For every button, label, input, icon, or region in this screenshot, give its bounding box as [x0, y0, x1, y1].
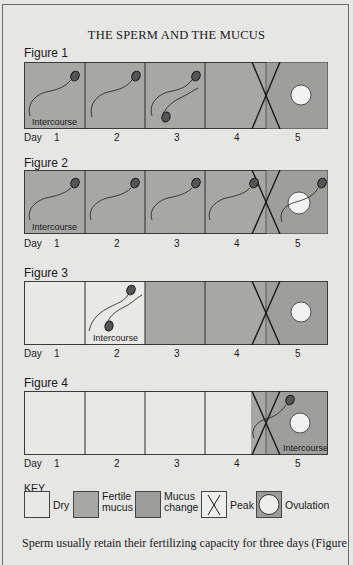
- figure-3-chart: Intercourse: [24, 281, 328, 345]
- figure-4-chart: Intercourse: [24, 391, 328, 455]
- figure-1-chart: Intercourse: [24, 62, 328, 129]
- figure-1-label: Figure 1: [24, 46, 68, 60]
- figure-1-day-axis: Day 1 2 3 4 5: [24, 132, 328, 144]
- diagram-title: THE SPERM AND THE MUCUS: [0, 28, 353, 43]
- mucus-change-swatch: [135, 491, 161, 518]
- peak-swatch: [201, 491, 227, 518]
- fertile-mucus-swatch: [73, 491, 99, 518]
- intercourse-label: Intercourse: [93, 333, 138, 343]
- intercourse-label: Intercourse: [283, 443, 328, 453]
- figure-4-label: Figure 4: [24, 376, 68, 390]
- intercourse-label: Intercourse: [32, 117, 77, 127]
- ovulation-swatch: [256, 491, 282, 518]
- ovum-circle-icon: [257, 492, 281, 517]
- fertile-mucus-label: Fertile mucus: [102, 491, 133, 513]
- figure-3-label: Figure 3: [24, 266, 68, 280]
- mucus-change-label: Mucus change: [164, 491, 198, 513]
- figure-3-day-axis: Day 1 2 3 4 5: [24, 348, 328, 360]
- peak-x-icon: [202, 492, 226, 517]
- dry-swatch: [24, 491, 50, 518]
- figure-4-day-axis: Day 1 2 3 4 5: [24, 458, 328, 470]
- figure-2-label: Figure 2: [24, 156, 68, 170]
- figure-2-chart: Intercourse: [24, 170, 328, 234]
- body-paragraph: Sperm usually retain their fertilizing c…: [22, 536, 352, 551]
- intercourse-label: Intercourse: [32, 222, 77, 232]
- figure-2-day-axis: Day 1 2 3 4 5: [24, 238, 328, 250]
